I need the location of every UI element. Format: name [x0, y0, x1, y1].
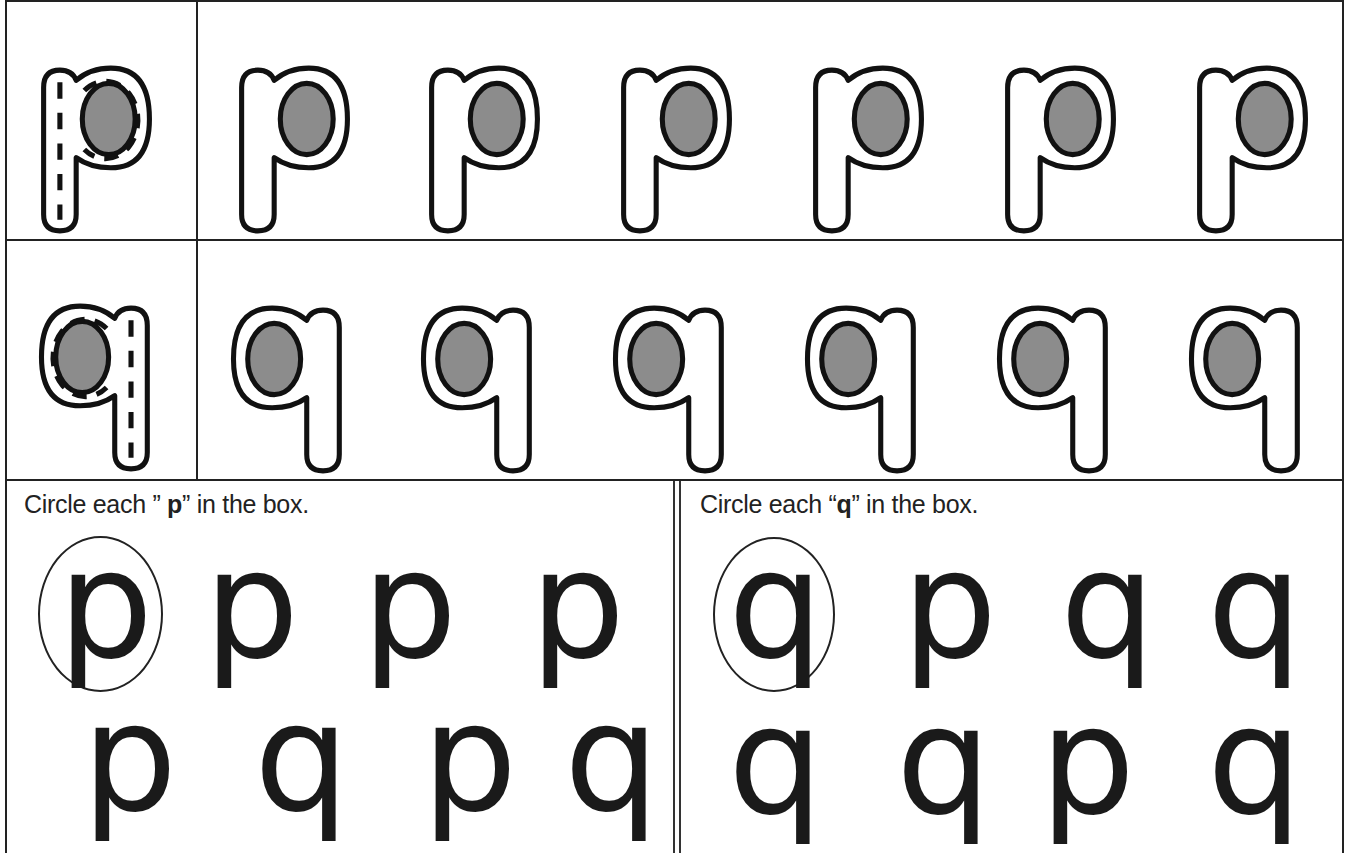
q-outline-icon [994, 302, 1124, 477]
letter-choice[interactable]: q [1207, 530, 1302, 680]
q-practice-letter [418, 302, 548, 477]
letter-choice[interactable]: q [1060, 530, 1155, 680]
p-practice-letter [418, 62, 548, 237]
q-outline-icon [610, 302, 740, 477]
p-practice-letter [1186, 62, 1316, 237]
column-divider [196, 0, 198, 480]
p-practice-letter [802, 62, 932, 237]
letter-choice[interactable]: p [530, 530, 625, 680]
letter-choice[interactable]: q [728, 530, 823, 680]
q-practice-letter [994, 302, 1124, 477]
letter-choice[interactable]: p [1040, 686, 1135, 836]
letter-choice[interactable]: q [254, 683, 349, 833]
p-outline-icon [802, 62, 932, 237]
letter-choice[interactable]: q [896, 686, 991, 836]
p-trace-model [30, 62, 160, 237]
letter-choice[interactable]: p [902, 530, 997, 680]
p-outline-icon [994, 62, 1124, 237]
q-outline-icon [228, 302, 358, 477]
letter-choice[interactable]: p [58, 530, 153, 680]
q-outline-icon [1186, 302, 1316, 477]
right-instruction: Circle each “q” in the box. [700, 490, 978, 519]
p-practice-letter [228, 62, 358, 237]
p-outline-icon [228, 62, 358, 237]
letter-choice[interactable]: q [728, 686, 823, 836]
p-practice-letter [610, 62, 740, 237]
letter-choice[interactable]: q [1207, 686, 1302, 836]
q-outline-icon [802, 302, 932, 477]
p-outline-icon [1186, 62, 1316, 237]
q-practice-letter [1186, 302, 1316, 477]
p-outline-icon [610, 62, 740, 237]
letter-choice[interactable]: p [422, 683, 517, 833]
letter-choice[interactable]: p [82, 683, 177, 833]
q-practice-letter [802, 302, 932, 477]
double-column-divider [673, 481, 681, 853]
letter-choice[interactable]: p [204, 530, 299, 680]
letter-choice[interactable]: q [564, 683, 659, 833]
q-dashed-trace-icon [36, 300, 166, 475]
left-instruction: Circle each ” p” in the box. [24, 490, 309, 519]
letter-choice[interactable]: p [362, 530, 457, 680]
p-outline-icon [418, 62, 548, 237]
p-dashed-trace-icon [30, 62, 160, 237]
q-practice-letter [610, 302, 740, 477]
q-practice-letter [228, 302, 358, 477]
row-divider [5, 239, 1344, 241]
q-outline-icon [418, 302, 548, 477]
q-trace-model [36, 300, 166, 475]
p-practice-letter [994, 62, 1124, 237]
